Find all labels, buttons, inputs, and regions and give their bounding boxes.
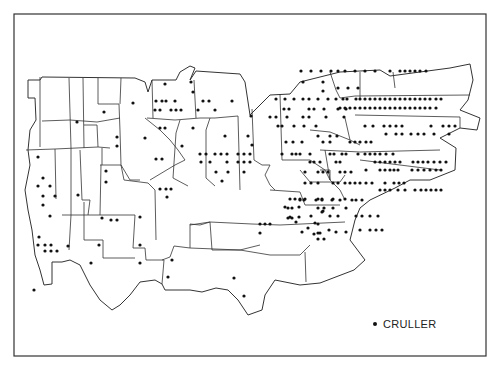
cruller-dot — [301, 97, 304, 100]
cruller-dot — [434, 106, 437, 109]
cruller-dot — [364, 168, 367, 171]
cruller-dot — [284, 140, 287, 143]
cruller-dot — [143, 136, 146, 139]
cruller-dot — [249, 114, 252, 117]
cruller-dot — [322, 107, 325, 110]
cruller-dot — [434, 168, 437, 171]
cruller-dot — [301, 115, 304, 118]
cruller-dot — [174, 108, 177, 111]
cruller-dot — [408, 106, 411, 109]
cruller-dot — [348, 181, 351, 184]
cruller-dot — [338, 198, 341, 201]
cruller-dot — [248, 160, 251, 163]
cruller-dot — [41, 176, 44, 179]
cruller-dot — [388, 69, 391, 72]
cruller-dot — [376, 214, 379, 217]
cruller-dot — [403, 97, 406, 100]
cruller-dot — [358, 106, 361, 109]
cruller-dot — [348, 106, 351, 109]
cruller-dot — [321, 170, 324, 173]
cruller-dot — [378, 106, 381, 109]
cruller-dot — [303, 181, 306, 184]
cruller-dot — [326, 97, 329, 100]
cruller-dot — [312, 232, 315, 235]
cruller-dot — [242, 160, 245, 163]
cruller-dot — [343, 170, 346, 173]
cruller-dot — [191, 126, 194, 129]
cruller-dot — [208, 160, 211, 163]
cruller-dot — [388, 188, 391, 191]
cruller-dot — [319, 69, 322, 72]
cruller-dot — [422, 132, 425, 135]
cruller-dot — [166, 275, 169, 278]
cruller-dot — [429, 124, 432, 127]
cruller-dot — [158, 126, 161, 129]
cruller-dot — [160, 157, 163, 160]
cruller-dot — [378, 188, 381, 191]
cruller-dot — [97, 243, 100, 246]
county-boundary — [393, 72, 395, 88]
cruller-dot — [382, 124, 385, 127]
cruller-dot — [309, 214, 312, 217]
cruller-dot — [423, 106, 426, 109]
cruller-dot — [354, 97, 357, 100]
cruller-dot — [438, 160, 441, 163]
cruller-dot — [316, 222, 319, 225]
cruller-dot — [48, 214, 51, 217]
cruller-dot — [388, 124, 391, 127]
cruller-dot — [350, 198, 353, 201]
county-boundary — [100, 165, 101, 215]
cruller-dot — [66, 244, 69, 247]
cruller-dot — [246, 134, 249, 137]
cruller-dot — [204, 152, 207, 155]
cruller-dot — [334, 160, 337, 163]
cruller-dot — [398, 69, 401, 72]
cruller-dot — [169, 187, 172, 190]
cruller-dot — [49, 243, 52, 246]
dot-icon — [373, 322, 377, 326]
cruller-dot — [76, 193, 79, 196]
cruller-dot — [400, 132, 403, 135]
cruller-dot — [353, 181, 356, 184]
cruller-dot — [258, 222, 261, 225]
county-boundary — [69, 78, 71, 148]
cruller-dot — [388, 168, 391, 171]
cruller-dot — [400, 124, 403, 127]
cruller-dots — [32, 69, 456, 297]
cruller-dot — [131, 101, 134, 104]
cruller-dot — [169, 108, 172, 111]
cruller-dot — [316, 197, 319, 200]
cruller-dot — [343, 197, 346, 200]
cruller-dot — [179, 108, 182, 111]
county-boundary — [133, 215, 164, 284]
cruller-dot — [36, 184, 39, 187]
cruller-dot — [373, 69, 376, 72]
cruller-dot — [280, 124, 283, 127]
cruller-dot — [447, 124, 450, 127]
cruller-dot — [346, 86, 349, 89]
cruller-dot — [115, 135, 118, 138]
cruller-dot — [297, 215, 300, 218]
cruller-dot — [383, 168, 386, 171]
cruller-dot — [226, 170, 229, 173]
cruller-dot — [214, 170, 217, 173]
cruller-dot — [354, 214, 357, 217]
cruller-dot — [268, 115, 271, 118]
county-boundary — [345, 118, 360, 145]
cruller-dot — [371, 124, 374, 127]
county-boundary — [80, 150, 90, 215]
cruller-dot — [393, 97, 396, 100]
cruller-dot — [37, 235, 40, 238]
cruller-dot — [428, 97, 431, 100]
cruller-dot — [336, 107, 339, 110]
cruller-dot — [292, 97, 295, 100]
cruller-dot — [220, 179, 223, 182]
cruller-dot — [378, 160, 381, 163]
county-boundary — [162, 222, 210, 260]
cruller-dot — [109, 218, 112, 221]
cruller-dot — [424, 69, 427, 72]
cruller-dot — [344, 206, 347, 209]
cruller-dot — [160, 99, 163, 102]
cruller-dot — [373, 97, 376, 100]
cruller-dot — [403, 106, 406, 109]
